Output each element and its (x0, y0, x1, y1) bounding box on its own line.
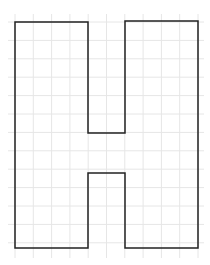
background-grid (8, 14, 204, 258)
letter-h-grid-diagram (0, 0, 210, 265)
